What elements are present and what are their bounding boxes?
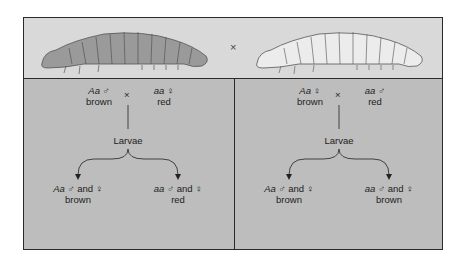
cross-panel-male-brown: Aa ♂ brown × aa ♀ red Larvae Aa ♂ and ♀ …	[24, 79, 233, 250]
genotype: aa	[365, 85, 376, 96]
offspring-1: Aa ♂ and ♀ brown	[249, 183, 329, 205]
genotype: Aa	[53, 183, 65, 194]
offspring-1: Aa ♂ and ♀ brown	[38, 183, 118, 205]
genotype: Aa	[264, 183, 276, 194]
genotype: aa	[154, 183, 165, 194]
cross-symbol: ×	[124, 89, 130, 100]
phenotype: brown	[376, 194, 402, 205]
larvae-illustration-band: ×	[24, 18, 442, 79]
cross-panel-female-brown: Aa ♀ brown × aa ♂ red Larvae Aa ♂ and ♀ …	[235, 79, 444, 250]
genotype: aa	[154, 85, 165, 96]
genotype: Aa	[88, 85, 100, 96]
phenotype: brown	[86, 96, 112, 107]
cross-symbol: ×	[335, 89, 341, 100]
female-symbol-icon: ♀	[314, 85, 321, 96]
parent2-label: aa ♀ red	[144, 85, 184, 107]
genotype: aa	[365, 183, 376, 194]
sexes: ♂ and ♀	[67, 183, 102, 194]
offspring-2: aa ♂ and ♀ brown	[349, 183, 429, 205]
sexes: ♂ and ♀	[378, 183, 413, 194]
male-symbol-icon: ♂	[103, 85, 110, 96]
parent2-label: aa ♂ red	[355, 85, 395, 107]
cross-diagram: × Aa ♂ brown × aa ♀ red Larvae Aa ♂ and …	[23, 17, 443, 250]
cross-symbol: ×	[230, 41, 236, 53]
parent1-label: Aa ♂ brown	[69, 85, 129, 107]
sexes: ♂ and ♀	[167, 183, 202, 194]
phenotype: brown	[297, 96, 323, 107]
phenotype: red	[368, 96, 382, 107]
genotype: Aa	[299, 85, 311, 96]
offspring-label: Larvae	[319, 135, 359, 146]
offspring-2: aa ♂ and ♀ red	[138, 183, 218, 205]
phenotype: brown	[65, 194, 91, 205]
offspring-label: Larvae	[108, 135, 148, 146]
phenotype: brown	[276, 194, 302, 205]
phenotype: red	[171, 194, 185, 205]
sexes: ♂ and ♀	[278, 183, 313, 194]
phenotype: red	[157, 96, 171, 107]
male-symbol-icon: ♂	[378, 85, 385, 96]
female-symbol-icon: ♀	[167, 85, 174, 96]
parent1-label: Aa ♀ brown	[280, 85, 340, 107]
